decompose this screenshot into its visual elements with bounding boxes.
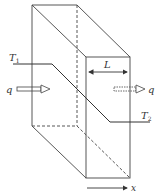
q-out-arrow — [114, 85, 145, 93]
slab-box — [32, 5, 130, 178]
l-label: L — [103, 59, 111, 70]
slab-diagram: T1 T2 L q q x — [0, 0, 161, 196]
q-out-label: q — [148, 84, 154, 95]
q-in-arrow — [17, 85, 50, 93]
q-in-label: q — [6, 84, 12, 95]
t1-label: T1 — [9, 52, 20, 64]
x-label: x — [131, 183, 136, 193]
t2-label: T2 — [141, 110, 152, 122]
temperature-profile-line — [13, 64, 150, 122]
